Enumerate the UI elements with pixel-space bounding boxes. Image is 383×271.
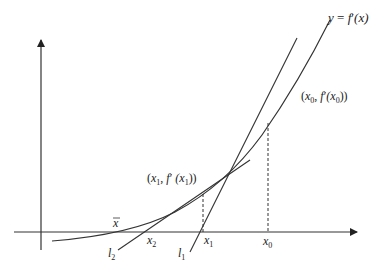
curve-f-prime [52, 20, 330, 241]
point-label-x1: (x1, f′ (x1)) [147, 171, 197, 187]
tangent-line-l1 [190, 38, 297, 252]
newton-method-diagram: y = f′(x) (x0, f′(x0)) (x1, f′ (x1)) x x… [0, 0, 383, 271]
tick-label-x0: x0 [262, 234, 272, 250]
tick-label-x-bar: x [112, 216, 120, 230]
tangent-label-l1: l1 [178, 246, 185, 262]
tick-label-x1: x1 [203, 233, 213, 249]
tick-label-x2: x2 [146, 233, 156, 249]
point-label-x0: (x0, f′(x0)) [301, 89, 348, 105]
curve-label: y = f′(x) [326, 10, 369, 25]
tangent-label-l2: l2 [108, 246, 115, 262]
